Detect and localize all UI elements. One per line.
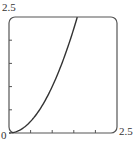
plot-area <box>0 0 134 143</box>
plot-frame <box>9 17 117 133</box>
y-max-label: 2.5 <box>2 2 16 13</box>
data-curve <box>9 17 77 133</box>
x-max-label: 2.5 <box>119 126 133 137</box>
origin-label: 0 <box>1 130 7 141</box>
